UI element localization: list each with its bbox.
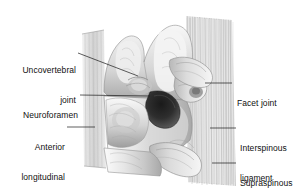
label-neuroforamen-text: Neuroforamen xyxy=(4,110,78,120)
label-supraspinous-line1: Supraspinous xyxy=(240,178,304,188)
label-facet-joint: Facet joint xyxy=(237,78,301,128)
label-anterior-longitudinal-ligament: Anterior longitudinal ligament xyxy=(2,122,65,194)
label-interspinous-line1: Interspinous xyxy=(240,143,302,153)
label-uncovertebral-joint-line1: Uncovertebral xyxy=(4,65,76,75)
label-anterior-longitudinal-line2: longitudinal xyxy=(2,172,65,182)
anterior-longitudinal-ligament xyxy=(82,30,106,168)
figure-canvas: Uncovertebral joint Neuroforamen Anterio… xyxy=(0,0,304,194)
label-facet-joint-text: Facet joint xyxy=(237,98,301,108)
label-supraspinous-ligament: Supraspinous ligament xyxy=(240,158,304,194)
label-anterior-longitudinal-line1: Anterior xyxy=(2,142,65,152)
